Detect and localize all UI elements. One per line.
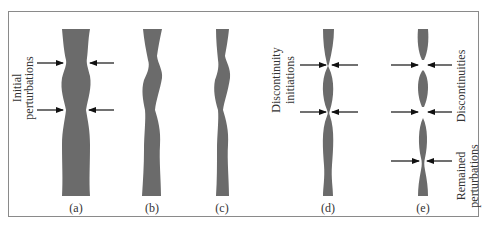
strand-b bbox=[142, 29, 162, 196]
panel-label-b: (b) bbox=[145, 201, 159, 215]
panel-label-a: (a) bbox=[69, 201, 82, 215]
label-initial-line2: perturbations bbox=[22, 56, 36, 120]
liquid-jet-breakup-figure: Initial perturbations Discontinuity init… bbox=[0, 0, 492, 225]
label-remained-line2: perturbations bbox=[467, 144, 481, 208]
panel-label-e: (e) bbox=[416, 201, 429, 215]
strand-c bbox=[214, 29, 230, 196]
panel-label-c: (c) bbox=[215, 201, 228, 215]
label-discontinuity-initiations-line1: Discontinuity bbox=[269, 47, 283, 112]
strand-e-segment-2 bbox=[418, 70, 428, 107]
label-remained-line1: Remained bbox=[454, 152, 468, 201]
label-discontinuities: Discontinuities bbox=[454, 49, 468, 122]
strand-e-segment-1 bbox=[418, 29, 429, 60]
panel-label-d: (d) bbox=[321, 201, 335, 215]
strand-a bbox=[61, 29, 90, 196]
label-discontinuity-initiations-line2: initiations bbox=[283, 56, 297, 104]
strand-e-segment-3 bbox=[418, 118, 428, 196]
figure-canvas: Initial perturbations Discontinuity init… bbox=[0, 0, 492, 225]
